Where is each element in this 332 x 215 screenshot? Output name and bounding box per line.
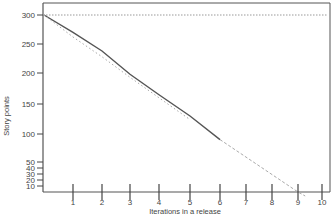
x-axis-label: Iterations in a release — [149, 207, 221, 215]
x-tick-label: 1 — [71, 198, 76, 207]
x-tick-label: 5 — [188, 198, 193, 207]
y-tick-label: 100 — [22, 130, 36, 139]
x-tick-label: 6 — [218, 198, 223, 207]
x-axis: 12345678910 — [71, 184, 327, 207]
y-axis: 1020304050100150200250300 — [22, 11, 43, 191]
x-tick-label: 4 — [157, 198, 162, 207]
y-tick-label: 50 — [26, 158, 35, 167]
x-tick-label: 8 — [270, 198, 275, 207]
x-tick-label: 2 — [100, 198, 105, 207]
x-tick-label: 9 — [296, 198, 301, 207]
x-tick-label: 10 — [318, 198, 327, 207]
series-line-projected-burndown — [220, 140, 305, 196]
x-tick-label: 7 — [244, 198, 249, 207]
plot-frame — [43, 3, 330, 192]
burndown-chart: 12345678910 1020304050100150200250300 It… — [0, 0, 332, 215]
series-line-ideal-burndown — [44, 15, 190, 120]
y-tick-label: 250 — [22, 40, 36, 49]
y-tick-label: 200 — [22, 69, 36, 78]
y-axis-label: Story points — [2, 96, 11, 136]
y-tick-label: 150 — [22, 100, 36, 109]
series-group — [44, 15, 305, 196]
x-tick-label: 3 — [128, 198, 133, 207]
series-line-actual-burndown — [44, 15, 220, 140]
y-tick-label: 300 — [22, 11, 36, 20]
